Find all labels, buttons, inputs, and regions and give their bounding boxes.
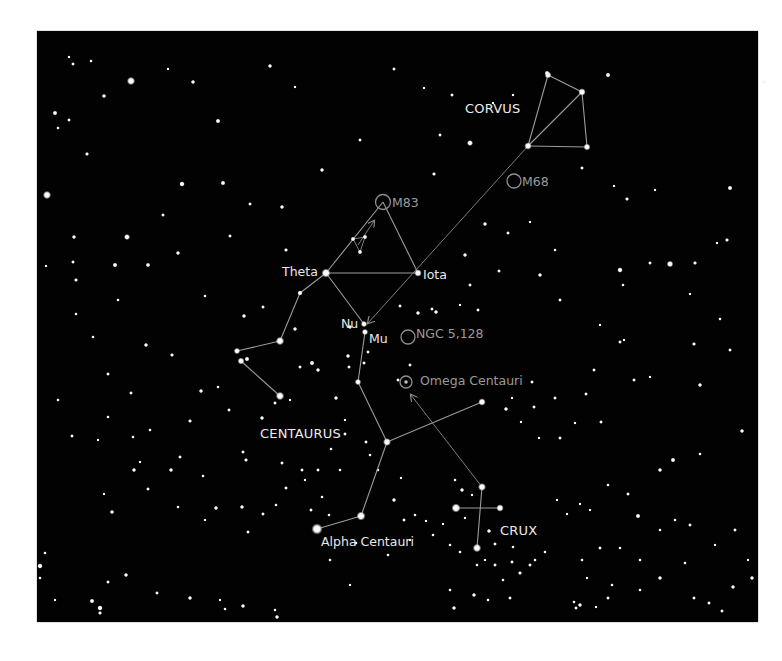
field-star [698, 452, 702, 456]
constellation-star[interactable] [297, 290, 302, 295]
constellation-star[interactable] [355, 379, 361, 385]
field-star [727, 185, 732, 190]
field-star [458, 303, 461, 306]
field-star [606, 596, 610, 600]
centaurus-line [387, 402, 482, 442]
field-star [658, 468, 662, 472]
field-star [284, 248, 288, 252]
field-star [368, 453, 372, 457]
field-star [106, 580, 110, 584]
field-star [598, 546, 602, 550]
field-star [430, 307, 434, 311]
field-star [731, 585, 735, 589]
field-star [328, 558, 332, 562]
field-star [438, 133, 442, 137]
field-star [670, 457, 675, 462]
field-star [493, 542, 497, 546]
constellation-star[interactable] [524, 142, 532, 150]
field-star [97, 605, 103, 611]
constellation-star[interactable] [414, 269, 422, 277]
field-star [124, 573, 128, 577]
field-star [692, 342, 696, 346]
corvus-line [548, 75, 582, 92]
field-star [112, 262, 117, 267]
field-star [132, 468, 136, 472]
field-star [244, 458, 248, 462]
field-star [280, 461, 284, 465]
field-star [203, 518, 206, 521]
constellation-star[interactable] [321, 268, 330, 277]
constellation-star[interactable] [578, 88, 586, 96]
field-star [588, 508, 591, 511]
constellation-star[interactable] [311, 523, 322, 534]
dso-m83[interactable]: M83 [376, 195, 419, 211]
constellation-star[interactable] [276, 337, 285, 346]
field-star [605, 72, 610, 77]
field-star [98, 611, 102, 615]
field-star [578, 603, 582, 607]
field-star [553, 248, 557, 252]
field-star [72, 235, 76, 239]
dso-omega-centauri[interactable]: Omega Centauri [400, 373, 523, 388]
field-star [148, 428, 152, 432]
dso-ngc-5128[interactable]: NGC 5,128 [401, 326, 484, 344]
field-star [450, 93, 454, 97]
centaurus-line [383, 202, 418, 273]
ngc5128-label: NGC 5,128 [416, 326, 484, 341]
field-star [320, 168, 324, 172]
constellation-star[interactable] [356, 511, 365, 520]
labels-layer: CORVUS CENTAURUS CRUX Theta Iota Nu Mu A… [260, 101, 537, 549]
field-star [96, 438, 99, 441]
dso-m68[interactable]: M68 [507, 174, 549, 189]
field-star [268, 64, 272, 68]
constellation-label-crux: CRUX [500, 523, 537, 538]
constellation-star[interactable] [545, 71, 550, 76]
field-star [553, 396, 557, 400]
field-star [683, 561, 687, 565]
field-star [316, 468, 320, 472]
deep-sky-objects-layer: M83 M68 NGC 5,128 Omega Centauri [376, 174, 549, 388]
constellation-star[interactable] [351, 237, 356, 242]
field-star [463, 516, 466, 519]
field-star [618, 546, 622, 550]
field-star [416, 311, 420, 315]
constellation-star[interactable] [473, 544, 482, 553]
constellation-star[interactable] [363, 235, 368, 240]
constellation-star[interactable] [358, 250, 363, 255]
constellation-star[interactable] [237, 357, 244, 364]
constellation-star[interactable] [276, 392, 285, 401]
constellation-star[interactable] [496, 504, 504, 512]
field-star [511, 93, 514, 96]
field-star [346, 354, 350, 358]
field-star [124, 234, 130, 240]
field-star [510, 396, 513, 399]
constellation-star[interactable] [583, 143, 590, 150]
star-label-theta: Theta [281, 264, 318, 279]
constellation-star[interactable] [361, 321, 367, 327]
field-star [626, 492, 630, 496]
field-star [487, 529, 491, 533]
constellation-star[interactable] [383, 438, 391, 446]
centaurus-line [317, 516, 361, 529]
field-star [274, 503, 278, 507]
field-star [452, 606, 456, 610]
constellation-star[interactable] [451, 503, 460, 512]
field-star [511, 545, 515, 549]
field-star [673, 518, 677, 522]
field-star [244, 356, 249, 361]
field-star [334, 396, 338, 400]
field-star [519, 420, 522, 423]
constellation-star[interactable] [478, 483, 486, 491]
field-star [574, 606, 578, 610]
constellation-star[interactable] [362, 329, 368, 335]
field-star [632, 378, 636, 382]
constellation-star[interactable] [478, 398, 486, 406]
field-star [508, 596, 512, 600]
field-star [67, 118, 71, 122]
field-star [530, 380, 534, 384]
field-star [144, 343, 148, 347]
field-star [538, 273, 542, 277]
constellation-star[interactable] [234, 348, 240, 354]
field-star [580, 558, 584, 562]
m68-label: M68 [522, 174, 549, 189]
